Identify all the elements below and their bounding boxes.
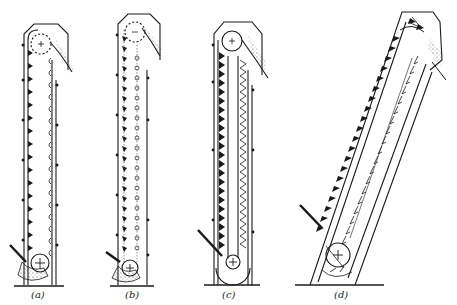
panel-label-a: (a) xyxy=(31,289,45,300)
bucket-elevator-diagram xyxy=(0,0,457,305)
elevator-a xyxy=(10,24,74,286)
panel-label-c: (c) xyxy=(222,289,235,300)
elevator-c xyxy=(198,22,268,285)
panel-label-d: (d) xyxy=(334,289,348,300)
panel-label-b: (b) xyxy=(125,289,139,300)
elevator-b xyxy=(106,14,162,286)
elevator-d xyxy=(295,12,446,285)
